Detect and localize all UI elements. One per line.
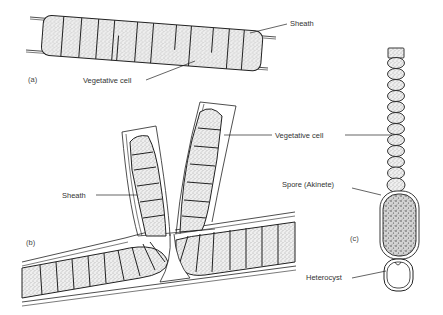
panel-c-filament-with-akinete	[345, 48, 419, 291]
panel-label-c: (c)	[350, 235, 359, 243]
label-b-sheath: Sheath	[62, 192, 86, 200]
label-c-spore-akinete: Spore (Akinete)	[282, 181, 334, 189]
panel-label-a: (a)	[28, 76, 37, 84]
panel-label-b: (b)	[26, 239, 35, 247]
diagram-drawing	[0, 0, 443, 315]
label-a-vegetative-cell: Vegetative cell	[83, 77, 131, 85]
label-a-sheath: Sheath	[290, 20, 314, 28]
panel-a-filament	[26, 15, 287, 80]
label-b-vegetative-cell: Vegetative cell	[275, 132, 323, 140]
label-c-heterocyst: Heterocyst	[306, 274, 342, 282]
panel-b-false-branching	[22, 102, 296, 306]
cyanobacteria-diagram: Sheath Vegetative cell (a) Sheath Vegeta…	[0, 0, 443, 315]
